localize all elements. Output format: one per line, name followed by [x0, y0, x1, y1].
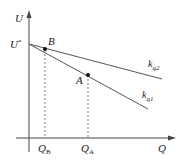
- u-star-label: U*: [10, 38, 22, 50]
- x-axis: [16, 136, 176, 141]
- point-a: [86, 73, 90, 77]
- point-b-label: B: [48, 35, 55, 47]
- point-a-label: A: [75, 74, 83, 86]
- qa-label: QA: [81, 142, 94, 156]
- x-axis-label: Q: [158, 142, 166, 154]
- line-kq2: [29, 44, 162, 79]
- y-axis-label: U: [15, 12, 24, 24]
- kq2-label: kq2: [148, 58, 160, 72]
- y-axis-arrow-icon: [27, 10, 32, 18]
- utility-quantity-diagram: U Q U* B A kq2 kq1 QB QA: [0, 0, 188, 160]
- x-axis-arrow-icon: [168, 136, 176, 141]
- y-axis: [27, 10, 32, 152]
- point-b: [43, 47, 47, 51]
- qb-label: QB: [38, 142, 51, 156]
- kq1-label: kq1: [142, 89, 153, 103]
